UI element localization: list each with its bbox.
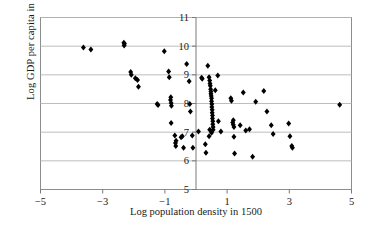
scatter-plot-figure: Log GDP per capita in 1995 567891011 −5−… — [0, 0, 365, 243]
figure-caption — [18, 231, 348, 240]
y-axis-label-container: Log GDP per capita in 1995 — [0, 0, 36, 190]
y-tick-label-6: 6 — [184, 155, 189, 166]
y-axis-label: Log GDP per capita in 1995 — [25, 0, 36, 130]
y-tick-label-10: 10 — [179, 41, 190, 52]
y-tick-label-9: 9 — [184, 69, 189, 80]
x-axis-tick-labels: −5−3−1135 — [35, 190, 354, 208]
y-tick-label-5: 5 — [184, 184, 189, 195]
x-axis-label: Log population density in 1500 — [40, 206, 352, 217]
y-tick-label-11: 11 — [179, 12, 189, 23]
